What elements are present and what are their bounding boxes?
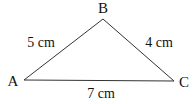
vertex-label-c: C bbox=[179, 74, 189, 90]
triangle-abc bbox=[24, 19, 174, 81]
side-label-ac: 7 cm bbox=[87, 86, 115, 101]
vertex-label-a: A bbox=[8, 73, 19, 89]
side-label-ab: 5 cm bbox=[27, 35, 55, 50]
triangle-diagram: B A C 5 cm 4 cm 7 cm bbox=[0, 0, 193, 104]
side-label-bc: 4 cm bbox=[145, 35, 173, 50]
vertex-label-b: B bbox=[98, 0, 108, 16]
